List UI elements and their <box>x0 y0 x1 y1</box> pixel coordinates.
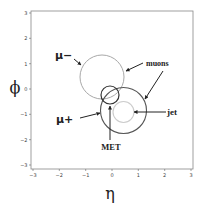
eta-phi-diagram: −3 −2 −1 0 1 2 3 3 2 1 0 −1 −2 −3 η ϕ μ−… <box>0 0 206 205</box>
muons-label: muons <box>146 59 169 68</box>
x-tick-label: 3 <box>189 172 192 178</box>
y-tick-label: 3 <box>24 10 27 16</box>
x-axis-label: η <box>105 184 115 203</box>
x-tick-label: −1 <box>82 172 89 178</box>
x-axis-ticks: −3 −2 −1 0 1 2 3 <box>29 169 192 178</box>
x-tick-label: −3 <box>29 172 36 178</box>
mu-plus-label: μ+ <box>56 113 73 126</box>
jet-label: jet <box>166 107 177 117</box>
x-tick-label: 1 <box>137 172 140 178</box>
y-axis-ticks: 3 2 1 0 −1 −2 −3 <box>20 10 31 168</box>
y-tick-label: −1 <box>20 111 27 117</box>
y-axis-label: ϕ <box>10 78 21 97</box>
x-tick-label: 0 <box>110 172 113 178</box>
y-tick-label: −3 <box>20 162 27 168</box>
y-tick-label: 0 <box>24 86 27 92</box>
met-label: MET <box>101 142 121 152</box>
x-tick-label: −2 <box>56 172 63 178</box>
mu-minus-label: μ− <box>55 49 72 62</box>
y-tick-label: −2 <box>20 137 27 143</box>
y-tick-label: 1 <box>24 61 27 67</box>
y-tick-label: 2 <box>24 35 27 41</box>
x-tick-label: 2 <box>163 172 166 178</box>
